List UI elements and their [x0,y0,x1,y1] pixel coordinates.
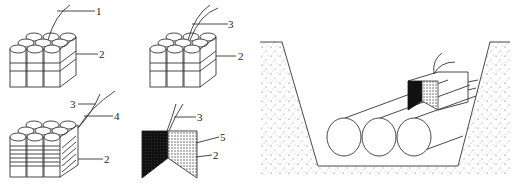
label-2d: 2 [213,149,219,161]
label-2a: 2 [99,48,105,60]
panel-d: 3 5 2 [142,104,226,178]
label-3c: 3 [197,111,203,123]
panel-b: 3 2 [150,5,244,87]
label-4: 4 [114,110,120,122]
panel-e [260,42,510,175]
label-2c: 2 [104,153,110,165]
diagram: 1 2 3 2 [0,0,516,188]
label-3a: 3 [228,18,234,30]
label-3b: 3 [70,98,76,110]
label-2b: 2 [238,50,244,62]
label-5: 5 [220,131,226,143]
panel-a: 1 2 [10,5,105,87]
label-1: 1 [96,5,102,17]
panel-c: 3 4 2 [10,91,120,177]
